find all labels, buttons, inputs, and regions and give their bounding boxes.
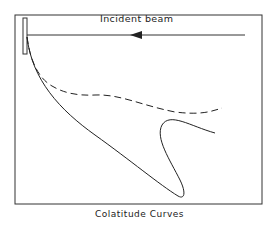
incident-beam-label: Incident beam (100, 13, 173, 24)
beam-arrowhead-icon (130, 31, 142, 39)
figure-caption: Colatitude Curves (0, 209, 275, 219)
solid-curve (27, 37, 215, 197)
target (23, 18, 27, 54)
frame (15, 15, 262, 204)
dashed-curve (27, 37, 222, 113)
colatitude-diagram (0, 0, 275, 230)
